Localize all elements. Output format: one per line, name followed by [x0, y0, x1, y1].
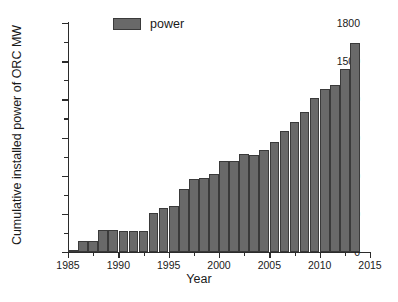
- bar: [169, 206, 179, 252]
- bar: [239, 154, 249, 252]
- bar: [249, 155, 259, 252]
- bar: [149, 213, 159, 252]
- bar: [259, 150, 269, 252]
- y-tick-minor: [64, 118, 68, 119]
- x-tick-minor: [244, 252, 245, 256]
- chart-figure: power 0300600900120015001800198519901995…: [0, 0, 398, 302]
- bar: [179, 189, 189, 252]
- x-tick-label: 1985: [56, 260, 79, 271]
- bar: [340, 69, 350, 252]
- bar: [290, 122, 300, 252]
- plot-area: 0300600900120015001800198519901995200020…: [68, 23, 370, 252]
- x-tick-label: 1990: [107, 260, 130, 271]
- bar: [219, 161, 229, 252]
- x-tick-major: [68, 252, 69, 258]
- bar: [199, 178, 209, 252]
- bar: [189, 179, 199, 252]
- bar: [88, 241, 98, 252]
- bar: [270, 142, 280, 252]
- x-tick-minor: [345, 252, 346, 256]
- y-tick-minor: [64, 195, 68, 196]
- x-tick-label: 2015: [358, 260, 381, 271]
- y-tick-minor: [64, 233, 68, 234]
- bar: [68, 250, 78, 252]
- x-tick-major: [169, 252, 170, 258]
- y-tick-major: [62, 61, 68, 62]
- x-tick-major: [269, 252, 270, 258]
- x-axis-title: Year: [0, 272, 398, 286]
- bar: [229, 161, 239, 252]
- y-tick-major: [62, 138, 68, 139]
- y-tick-minor: [64, 42, 68, 43]
- bar: [300, 112, 310, 252]
- x-tick-minor: [93, 252, 94, 256]
- bar: [330, 85, 340, 252]
- y-tick-major: [62, 214, 68, 215]
- x-tick-minor: [295, 252, 296, 256]
- y-axis-title: Cumulative installed power of ORC MW: [10, 17, 24, 253]
- x-tick-major: [118, 252, 119, 258]
- bar: [129, 231, 139, 252]
- bar: [119, 231, 129, 252]
- y-tick-minor: [64, 157, 68, 158]
- y-tick-label: 1800: [337, 18, 360, 29]
- y-tick-major: [62, 176, 68, 177]
- x-tick-label: 2005: [258, 260, 281, 271]
- bar: [108, 230, 118, 252]
- y-tick-major: [62, 99, 68, 100]
- bar: [139, 231, 149, 252]
- bar: [310, 98, 320, 252]
- bar: [350, 43, 360, 252]
- bar: [159, 208, 169, 252]
- x-tick-major: [320, 252, 321, 258]
- x-tick-major: [219, 252, 220, 258]
- x-tick-label: 2010: [308, 260, 331, 271]
- bar: [98, 230, 108, 252]
- bar: [78, 241, 88, 252]
- bar: [209, 174, 219, 252]
- bar: [280, 131, 290, 252]
- x-tick-label: 1995: [157, 260, 180, 271]
- x-tick-minor: [194, 252, 195, 256]
- x-tick-label: 2000: [207, 260, 230, 271]
- y-tick-minor: [64, 80, 68, 81]
- x-tick-minor: [144, 252, 145, 256]
- y-tick-major: [62, 23, 68, 24]
- x-tick-major: [370, 252, 371, 258]
- bar: [320, 89, 330, 252]
